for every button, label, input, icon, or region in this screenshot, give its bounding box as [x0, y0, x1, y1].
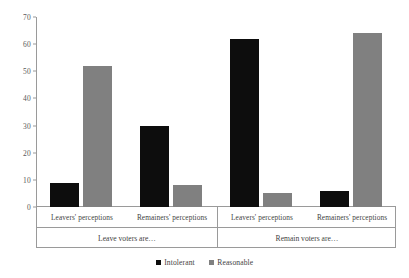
bar-reasonable-0: [83, 66, 112, 207]
legend-item-intolerant: Intolerant: [156, 258, 195, 267]
bar-reasonable-2: [263, 193, 292, 207]
y-tick-mark-40: [33, 98, 36, 99]
legend-swatch-icon-intolerant: [156, 260, 161, 265]
category-label-leavers-perceptions-leave: Leavers' perceptions: [37, 207, 127, 228]
category-axis-band: Leavers' perceptions Remainers' percepti…: [36, 207, 396, 228]
y-tick-mark-60: [33, 44, 36, 45]
bar-intolerant-3: [320, 191, 349, 207]
y-tick-mark-50: [33, 71, 36, 72]
y-tick-mark-20: [33, 152, 36, 153]
y-axis-line: [36, 17, 37, 207]
category-label-remainers-perceptions-remain: Remainers' perceptions: [307, 207, 397, 228]
legend-label-reasonable: Reasonable: [217, 258, 253, 267]
chart-legend: Intolerant Reasonable: [0, 258, 409, 267]
group-axis-band: Leave voters are… Remain voters are…: [36, 228, 396, 248]
y-tick-mark-70: [33, 17, 36, 18]
legend-item-reasonable: Reasonable: [209, 258, 254, 267]
group-label-remain-voters: Remain voters are…: [217, 228, 397, 248]
bar-reasonable-1: [173, 185, 202, 207]
bar-intolerant-0: [50, 183, 79, 207]
bar-reasonable-3: [353, 33, 382, 207]
group-label-leave-voters: Leave voters are…: [37, 228, 217, 248]
y-tick-mark-10: [33, 179, 36, 180]
legend-label-intolerant: Intolerant: [164, 258, 195, 267]
category-label-leavers-perceptions-remain: Leavers' perceptions: [217, 207, 307, 228]
bar-intolerant-2: [230, 39, 259, 207]
plot-area: 0 10 20 30 40 50 60 70: [36, 17, 396, 207]
y-tick-mark-30: [33, 125, 36, 126]
legend-swatch-icon-reasonable: [209, 260, 214, 265]
bar-intolerant-1: [140, 126, 169, 207]
category-label-remainers-perceptions-leave: Remainers' perceptions: [127, 207, 217, 228]
bar-chart: 0 10 20 30 40 50 60 70 Leavers' percepti…: [0, 0, 409, 278]
